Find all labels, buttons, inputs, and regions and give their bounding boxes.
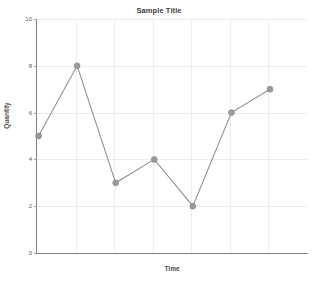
chart-title: Sample Title: [0, 6, 318, 15]
y-axis-label: Quantity: [3, 86, 10, 146]
y-tick-mark: [34, 253, 37, 254]
data-point: [151, 157, 157, 163]
y-tick-label: 2: [29, 203, 32, 209]
data-point: [229, 110, 235, 116]
data-point: [74, 63, 80, 69]
data-point: [267, 86, 273, 92]
plot-area: 0246810: [37, 19, 307, 253]
data-point: [113, 180, 119, 186]
data-point: [190, 203, 196, 209]
y-tick-label: 0: [29, 250, 32, 256]
y-tick-label: 10: [25, 16, 32, 22]
x-axis-spine: [36, 253, 308, 254]
y-tick-label: 6: [29, 110, 32, 116]
series-markers: [36, 63, 273, 209]
series-quantity: [37, 19, 307, 253]
data-point: [36, 133, 42, 139]
line-chart: Sample Title 0246810 Quantity Time: [0, 0, 318, 288]
x-axis-label: Time: [37, 265, 307, 272]
series-line: [39, 66, 270, 206]
y-tick-label: 4: [29, 156, 32, 162]
y-tick-label: 8: [29, 63, 32, 69]
